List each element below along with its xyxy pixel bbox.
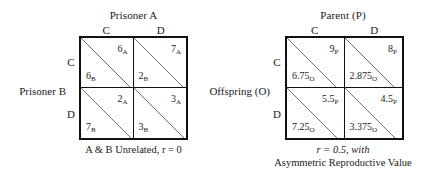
row-tick-labels: C D [64, 36, 78, 140]
payoff-upper-value: 5.5P [322, 94, 338, 104]
payoff-upper-value: 7A [171, 44, 181, 54]
payoff-cell-cd[interactable]: 7A 2B [134, 38, 187, 88]
caption-line-2: Asymmetric Reproductive Value [262, 156, 424, 169]
payoff-lower-value: 6B [86, 71, 96, 81]
payoff-matrix-figure-left: Prisoner A C D Prisoner B C D 6A 6B 7A 2… [0, 0, 212, 180]
payoff-upper-value: 8P [388, 44, 397, 54]
payoff-lower-value: 6.75O [292, 71, 315, 81]
payoff-cell-dc[interactable]: 2A 7B [81, 88, 134, 138]
payoff-cell-dc[interactable]: 5.5P 7.25O [287, 88, 345, 138]
row-tick-c: C [270, 36, 284, 88]
payoff-lower-value: 2B [139, 71, 149, 81]
payoff-cell-cc[interactable]: 9P 6.75O [287, 38, 345, 88]
payoff-upper-value: 3A [171, 94, 181, 104]
figure-caption: A & B Unrelated, r = 0 [0, 143, 212, 156]
column-tick-labels: C D [285, 24, 404, 36]
payoff-cell-dd[interactable]: 3A 3B [134, 88, 187, 138]
payoff-grid: 9P 6.75O 8P 2.875O 5.5P 7.25O 4.5P 3.375… [285, 36, 404, 140]
payoff-upper-value: 2A [117, 94, 127, 104]
column-tick-labels: C D [79, 24, 188, 36]
payoff-grid: 6A 6B 7A 2B 2A 7B 3A 3B [79, 36, 188, 140]
payoff-matrix-figure-right: Parent (P) C D Offspring (O) C D 9P 6.75… [212, 0, 424, 180]
row-tick-d: D [270, 88, 284, 140]
column-header-label: Prisoner A [0, 9, 212, 21]
caption-line-1: r = 0.5, with [262, 143, 424, 156]
column-tick-d: D [134, 24, 189, 36]
column-header-label: Parent (P) [212, 9, 424, 21]
column-tick-c: C [79, 24, 134, 36]
payoff-cell-cd[interactable]: 8P 2.875O [345, 38, 403, 88]
figure-caption: r = 0.5, with Asymmetric Reproductive Va… [212, 143, 424, 169]
payoff-upper-value: 4.5P [381, 94, 397, 104]
payoff-upper-value: 6A [117, 44, 127, 54]
caption-line-1: A & B Unrelated, r = 0 [55, 143, 212, 156]
payoff-lower-value: 3B [139, 122, 149, 132]
payoff-lower-value: 7B [86, 122, 96, 132]
payoff-upper-value: 9P [330, 44, 339, 54]
row-header-label: Prisoner B [0, 85, 66, 97]
payoff-lower-value: 7.25O [292, 122, 315, 132]
row-tick-labels: C D [270, 36, 284, 140]
row-tick-c: C [64, 36, 78, 88]
row-tick-d: D [64, 88, 78, 140]
column-tick-d: D [345, 24, 405, 36]
payoff-cell-dd[interactable]: 4.5P 3.375O [345, 88, 403, 138]
row-header-label: Offspring (O) [196, 85, 270, 97]
payoff-cell-cc[interactable]: 6A 6B [81, 38, 134, 88]
payoff-lower-value: 3.375O [350, 122, 378, 132]
payoff-lower-value: 2.875O [350, 71, 378, 81]
column-tick-c: C [285, 24, 345, 36]
